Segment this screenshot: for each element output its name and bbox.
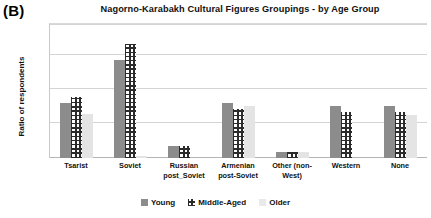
x-axis-label: Western [319, 161, 373, 191]
x-axis-label: Russian post_Soviet [157, 161, 211, 191]
bar [341, 112, 352, 158]
x-axis-label: Tsarist [49, 161, 103, 191]
legend-item: Middle-Aged [188, 198, 246, 207]
bar [330, 106, 341, 158]
bar-groups [49, 23, 427, 158]
legend-swatch-icon [259, 199, 266, 206]
bar-group [157, 23, 211, 158]
chart-legend: YoungMiddle-AgedOlder [0, 198, 431, 207]
bar [287, 152, 298, 158]
bar-group [265, 23, 319, 158]
bar [384, 106, 395, 158]
bar [125, 44, 136, 158]
bar [168, 146, 179, 158]
legend-item: Older [259, 198, 290, 207]
bar [406, 115, 417, 158]
legend-label: Older [269, 198, 290, 207]
x-axis-labels: TsaristSovietRussian post_SovietArmenian… [49, 161, 427, 191]
bar [222, 103, 233, 158]
bar-group [103, 23, 157, 158]
legend-label: Young [151, 198, 175, 207]
bar [276, 152, 287, 158]
legend-label: Middle-Aged [198, 198, 246, 207]
legend-item: Young [141, 198, 175, 207]
bar [60, 103, 71, 158]
bar [233, 109, 244, 158]
bar-group [319, 23, 373, 158]
bar [82, 114, 93, 158]
bar-group [211, 23, 265, 158]
x-axis-label: None [373, 161, 427, 191]
panel-label: (B) [3, 2, 24, 19]
bar [395, 112, 406, 158]
bar-group [373, 23, 427, 158]
bar [71, 97, 82, 158]
bar [298, 152, 309, 158]
chart-title: Nagorno-Karabakh Cultural Figures Groupi… [60, 4, 420, 14]
bar [244, 106, 255, 158]
bar [114, 60, 125, 158]
legend-swatch-icon [141, 199, 148, 206]
chart-figure: (B) Nagorno-Karabakh Cultural Figures Gr… [0, 0, 431, 218]
bar [179, 146, 190, 158]
x-axis-label: Other (non-West) [265, 161, 319, 191]
bar-group [49, 23, 103, 158]
y-axis-title: Ratio of respondents [17, 37, 26, 157]
x-axis-label: Soviet [103, 161, 157, 191]
bar [136, 156, 147, 158]
legend-swatch-icon [188, 199, 195, 206]
x-axis-label: Armenian post-Soviet [211, 161, 265, 191]
